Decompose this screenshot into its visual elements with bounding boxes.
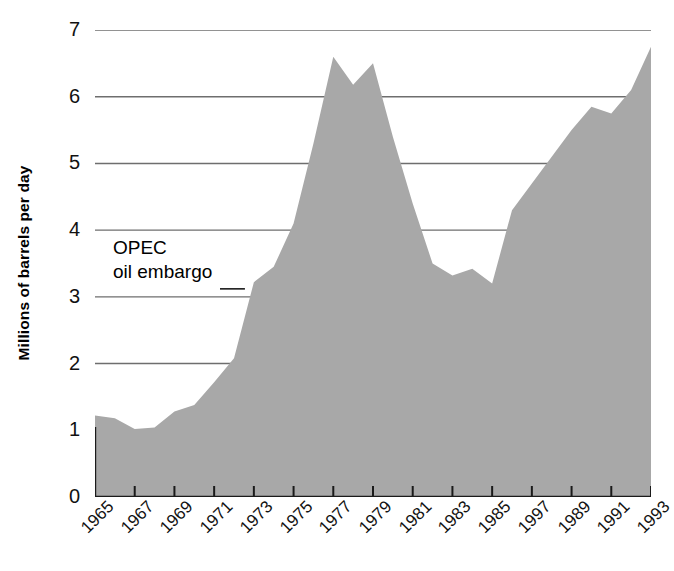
x-tick-label-1993: 1993 bbox=[660, 470, 674, 511]
y-tick-label-6: 6 bbox=[50, 86, 80, 106]
annotation-line-1: OPEC bbox=[113, 236, 212, 260]
y-tick-label-5: 5 bbox=[50, 152, 80, 172]
y-tick-label-3: 3 bbox=[50, 286, 80, 306]
y-tick-label-1: 1 bbox=[50, 419, 80, 439]
annotation-line-2: oil embargo bbox=[113, 260, 212, 284]
y-tick-label-4: 4 bbox=[50, 219, 80, 239]
y-tick-label-0: 0 bbox=[50, 486, 80, 506]
y-axis-title: Millions of barrels per day bbox=[15, 53, 33, 473]
x-axis-tick-labels: 1965196719691971197319751977197919811983… bbox=[95, 497, 651, 571]
y-tick-label-7: 7 bbox=[50, 19, 80, 39]
y-tick-label-2: 2 bbox=[50, 353, 80, 373]
opec-embargo-annotation: OPEC oil embargo bbox=[113, 236, 212, 285]
y-axis-tick-labels: 7 6 5 4 3 2 1 0 bbox=[36, 0, 80, 571]
